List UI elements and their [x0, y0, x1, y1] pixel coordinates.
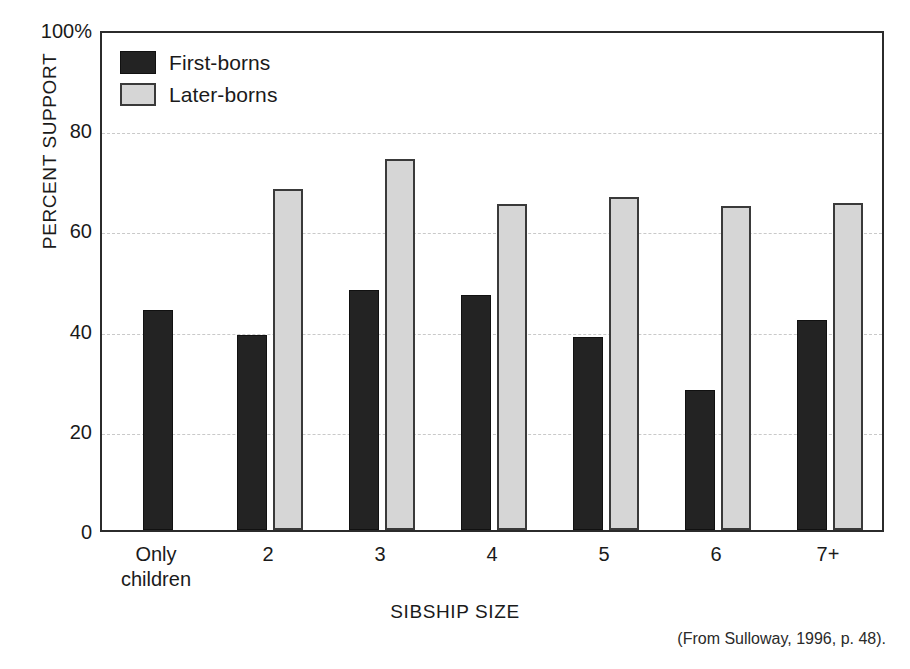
bar-first-borns-6 [685, 390, 715, 530]
gridline [102, 434, 882, 435]
source-note: (From Sulloway, 1996, p. 48). [677, 630, 886, 648]
y-tick-label: 80 [0, 120, 92, 143]
legend-swatch-first [120, 51, 156, 74]
bar-later-borns-5 [609, 197, 639, 530]
bar-chart-figure: PERCENT SUPPORT 100%806040200 First-born… [0, 0, 910, 669]
bar-first-borns-4 [461, 295, 491, 530]
x-tick-label: 7+ [772, 542, 884, 567]
bar-later-borns-7plus [833, 203, 863, 530]
x-tick-label: 2 [212, 542, 324, 567]
bar-first-borns-3 [349, 290, 379, 530]
x-tick-label: 5 [548, 542, 660, 567]
bar-first-borns-only-children [143, 310, 173, 530]
bar-later-borns-4 [497, 204, 527, 530]
bar-first-borns-5 [573, 337, 603, 530]
gridline [102, 133, 882, 134]
x-tick-label: 4 [436, 542, 548, 567]
bar-later-borns-2 [273, 189, 303, 530]
x-tick-label: Only children [100, 542, 212, 592]
legend-swatch-later [120, 83, 156, 106]
bar-later-borns-6 [721, 206, 751, 530]
x-tick-label: 3 [324, 542, 436, 567]
gridline [102, 233, 882, 234]
x-axis-title: SIBSHIP SIZE [0, 601, 910, 623]
bar-first-borns-7plus [797, 320, 827, 530]
gridline [102, 334, 882, 335]
legend-label-first: First-borns [169, 51, 270, 75]
y-tick-label: 0 [0, 521, 92, 544]
legend: First-bornsLater-borns [120, 48, 278, 112]
y-tick-label: 60 [0, 220, 92, 243]
legend-label-later: Later-borns [169, 83, 278, 107]
bar-later-borns-3 [385, 159, 415, 530]
y-tick-label: 100% [0, 20, 92, 43]
bar-first-borns-2 [237, 335, 267, 530]
y-tick-label: 40 [0, 320, 92, 343]
y-axis-title: PERCENT SUPPORT [39, 0, 61, 361]
legend-item-later: Later-borns [120, 80, 278, 109]
legend-item-first: First-borns [120, 48, 278, 77]
x-tick-label: 6 [660, 542, 772, 567]
plot-area: First-bornsLater-borns [100, 31, 884, 532]
y-tick-label: 20 [0, 420, 92, 443]
